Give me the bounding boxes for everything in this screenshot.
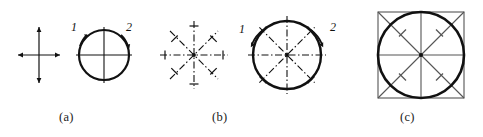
panel-a-crosshair <box>18 27 60 83</box>
panel-c-tick-upper-left <box>399 30 406 37</box>
arrowhead-down <box>37 78 42 83</box>
panel-caption-b: (b) <box>212 110 227 125</box>
panel-caption-a: (a) <box>59 110 74 125</box>
panel-b-center-point <box>192 53 196 57</box>
panel-c-tick-lower-left <box>399 74 406 81</box>
panel-b-circle-center-point <box>285 53 289 57</box>
panel-b-tick-upper-left <box>171 36 177 42</box>
panel-caption-c: (c) <box>400 110 415 125</box>
panel-b-tick-lower-right <box>210 68 216 74</box>
panel-b-star-group <box>160 21 228 89</box>
panel-b-stroke-label-1: 1 <box>239 22 245 37</box>
panel-c <box>378 12 464 98</box>
panel-c-tick-lower-right <box>436 74 443 81</box>
arrowhead-left <box>18 53 23 58</box>
panel-a-circle-group <box>76 27 132 83</box>
panel-a-stroke-label-2: 2 <box>126 20 132 35</box>
figure-root: 1 2 1 2 (a) (b) (c) <box>0 0 483 137</box>
arrowhead-right <box>55 53 60 58</box>
panel-c-tick-upper-right <box>436 30 443 37</box>
panel-b-tick-lower-left <box>171 68 177 74</box>
panel-a-stroke2-arc <box>121 35 128 46</box>
panel-a-stroke-label-1: 1 <box>71 20 77 35</box>
arrowhead-up <box>37 27 42 32</box>
panel-b-tick-upper-right <box>210 36 216 42</box>
panel-a <box>18 27 132 83</box>
panel-b-circle-group <box>248 16 326 94</box>
panel-c-center-point <box>419 53 423 57</box>
panel-b-stroke-label-2: 2 <box>330 20 336 35</box>
